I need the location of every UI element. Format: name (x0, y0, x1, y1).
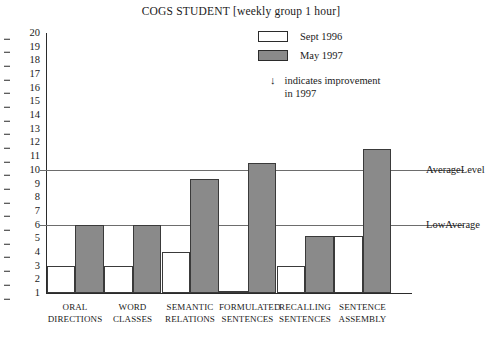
reference-label-line: Average (445, 219, 480, 230)
category-label-line: SENTENCE (334, 302, 391, 314)
y-axis-tick-mark (4, 107, 10, 108)
y-axis-tick-mark (4, 298, 10, 299)
y-axis-tick-mark (4, 202, 10, 203)
bar (162, 252, 191, 293)
y-axis-tick-mark (4, 216, 10, 217)
y-axis-tick-label: 18 (10, 55, 40, 66)
bar (248, 163, 277, 293)
y-axis-tick-label: 16 (10, 82, 40, 93)
y-axis-tick-label: 12 (10, 137, 40, 148)
y-axis-tick-label: 1 (10, 288, 40, 299)
bar (305, 236, 334, 293)
y-axis-tick-label: 13 (10, 124, 40, 135)
y-axis-tick-label: 14 (10, 110, 40, 121)
y-axis-tick-mark (4, 148, 10, 149)
y-axis-tick-label: 11 (10, 151, 40, 162)
bar (75, 225, 104, 293)
y-axis-tick-mark (4, 66, 10, 67)
category-label: ORALDIRECTIONS (47, 302, 104, 325)
bar (363, 149, 392, 293)
y-axis-tick-label: 6 (10, 219, 40, 230)
y-axis-tick-mark (4, 271, 10, 272)
bar (133, 225, 162, 293)
y-axis-tick-mark (4, 230, 10, 231)
bar (219, 291, 248, 293)
category-label: WORDCLASSES (104, 302, 161, 325)
category-label-line: SENTENCES (277, 314, 334, 326)
reference-line-label: AverageLevel (426, 164, 485, 177)
x-axis-baseline (46, 293, 412, 294)
y-axis-tick-label: 3 (10, 260, 40, 271)
y-axis-tick-mark (4, 175, 10, 176)
plot-area: 2019181716151413121110987654321 AverageL… (46, 28, 412, 298)
y-axis-line (46, 33, 47, 294)
y-axis-tick-mark (4, 38, 10, 39)
reference-label-line: Level (461, 164, 485, 175)
y-axis-tick-mark (4, 134, 10, 135)
reference-label-line: Low (426, 219, 445, 230)
y-axis-tick-mark (4, 93, 10, 94)
y-axis-tick-label: 10 (10, 165, 40, 176)
y-axis-tick-label: 15 (10, 96, 40, 107)
category-label: SEMANTICRELATIONS (162, 302, 219, 325)
category-label-line: ASSEMBLY (334, 314, 391, 326)
reference-line-label: LowAverage (426, 219, 480, 232)
y-axis-tick-label: 2 (10, 274, 40, 285)
category-label-line: WORD (104, 302, 161, 314)
y-axis-tick-label: 17 (10, 69, 40, 80)
y-axis-tick-mark (4, 161, 10, 162)
y-axis-tick-mark (4, 79, 10, 80)
category-label-line: DIRECTIONS (47, 314, 104, 326)
bar (277, 266, 306, 293)
category-label-line: ORAL (47, 302, 104, 314)
y-axis-tick-label: 19 (10, 41, 40, 52)
category-label-line: RELATIONS (162, 314, 219, 326)
bar (47, 266, 76, 293)
category-label-line: RECALLING (277, 302, 334, 314)
y-axis-tick-mark (4, 189, 10, 190)
reference-label-line: Average (426, 164, 461, 175)
y-axis-tick-label: 4 (10, 247, 40, 258)
y-axis-tick-label: 7 (10, 206, 40, 217)
y-axis-tick-mark (4, 120, 10, 121)
y-axis-tick-mark (4, 244, 10, 245)
category-label: SENTENCEASSEMBLY (334, 302, 391, 325)
bar (334, 236, 363, 293)
bar (190, 179, 219, 293)
category-label-line: CLASSES (104, 314, 161, 326)
chart-title: COGS STUDENT [weekly group 1 hour] (0, 5, 482, 17)
y-axis-tick-mark (4, 52, 10, 53)
category-label: FORMULATEDSENTENCES (219, 302, 276, 325)
y-axis-tick-label: 5 (10, 233, 40, 244)
y-axis-tick-label: 9 (10, 178, 40, 189)
category-label: RECALLINGSENTENCES (277, 302, 334, 325)
y-axis-tick-label: 20 (10, 28, 40, 39)
category-label-line: SENTENCES (219, 314, 276, 326)
bar (104, 266, 133, 293)
y-axis-tick-mark (4, 285, 10, 286)
category-label-line: FORMULATED (219, 302, 276, 314)
y-axis-tick-mark (4, 257, 10, 258)
y-axis-tick-label: 8 (10, 192, 40, 203)
category-label-line: SEMANTIC (162, 302, 219, 314)
